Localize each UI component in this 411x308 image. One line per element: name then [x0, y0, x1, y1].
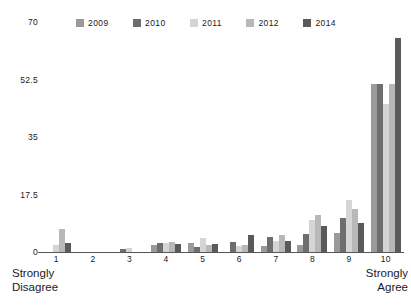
x-axis-tick-label-2: 2 [90, 255, 95, 264]
x-axis-tick-label-7: 7 [273, 255, 278, 264]
y-axis-tick-label: 0 [4, 248, 38, 257]
bar-group-5 [184, 22, 221, 252]
x-axis-tick-label-1: 1 [54, 255, 59, 264]
y-axis-tick-label: 52.5 [4, 75, 38, 84]
x-axis-tick-label-9: 9 [347, 255, 352, 264]
bar-group-10 [367, 22, 404, 252]
y-axis: 017.53552.570 [0, 0, 38, 308]
x-axis-tick-label-5: 5 [200, 255, 205, 264]
x-axis: StronglyDisagree StronglyAgree 123456789… [38, 253, 404, 308]
bar-group-9 [331, 22, 368, 252]
x-axis-low-anchor-label: StronglyDisagree [12, 267, 58, 294]
x-axis-tick-label-4: 4 [164, 255, 169, 264]
bar-group-4 [148, 22, 185, 252]
x-axis-tick-label-3: 3 [127, 255, 132, 264]
survey-bar-chart: 20092010201120122014 017.53552.570 Stron… [0, 0, 411, 308]
x-axis-tick-label-6: 6 [237, 255, 242, 264]
y-axis-tick-label: 17.5 [4, 190, 38, 199]
bar-2014-4[interactable] [175, 244, 181, 252]
bar-2014-5[interactable] [212, 244, 218, 252]
bar-group-7 [258, 22, 295, 252]
anchor-label-line: Disagree [12, 281, 58, 295]
anchor-label-line: Strongly [366, 267, 408, 281]
x-axis-high-anchor-label: StronglyAgree [366, 267, 408, 294]
bar-2014-7[interactable] [285, 241, 291, 253]
x-axis-tick-label-8: 8 [310, 255, 315, 264]
y-axis-tick-label: 35 [4, 133, 38, 142]
plot-area [38, 22, 404, 252]
bar-group-3 [111, 22, 148, 252]
bar-2014-6[interactable] [248, 235, 254, 252]
bar-group-6 [221, 22, 258, 252]
x-axis-tick-label-10: 10 [381, 255, 391, 264]
bar-group-1 [38, 22, 75, 252]
bar-2014-1[interactable] [65, 243, 71, 252]
anchor-label-line: Agree [366, 281, 408, 295]
bar-group-8 [294, 22, 331, 252]
bar-group-2 [75, 22, 112, 252]
bar-2014-9[interactable] [358, 223, 364, 252]
y-axis-tick-label: 70 [4, 18, 38, 27]
bar-2014-10[interactable] [395, 38, 401, 252]
bar-2014-8[interactable] [321, 226, 327, 252]
anchor-label-line: Strongly [12, 267, 58, 281]
